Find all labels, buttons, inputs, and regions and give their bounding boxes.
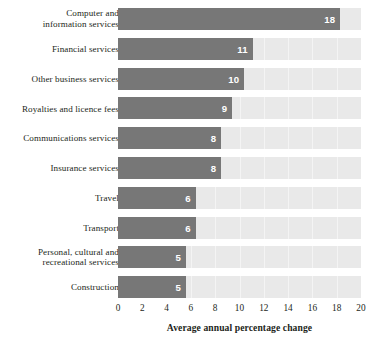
gridline <box>312 68 313 90</box>
x-tick-label: 12 <box>259 303 268 313</box>
x-tick-label: 2 <box>140 303 145 313</box>
chart-row: Other business services10 <box>0 64 374 94</box>
gridline <box>312 187 313 209</box>
gridline <box>312 38 313 60</box>
bar-track: 6 <box>118 217 361 239</box>
gridline <box>312 157 313 179</box>
gridline <box>240 187 241 209</box>
gridline <box>240 217 241 239</box>
gridline <box>288 217 289 239</box>
gridline <box>312 246 313 268</box>
bar-value-label: 6 <box>185 222 191 233</box>
gridline <box>337 127 338 149</box>
gridline <box>264 217 265 239</box>
bar: 5 <box>118 246 186 268</box>
x-tick-label: 8 <box>213 303 218 313</box>
gridline <box>191 276 192 298</box>
gridline <box>264 68 265 90</box>
bar: 8 <box>118 157 221 179</box>
gridline <box>288 187 289 209</box>
bar-value-label: 18 <box>324 13 335 24</box>
x-tick-label: 4 <box>164 303 169 313</box>
bar-track: 18 <box>118 8 361 30</box>
gridline <box>312 217 313 239</box>
gridline <box>264 246 265 268</box>
category-label: Travel <box>0 193 119 204</box>
bar-track: 8 <box>118 127 361 149</box>
plot-area: Computer and information services18Finan… <box>0 0 374 305</box>
gridline <box>264 97 265 119</box>
x-axis-title: Average annual percentage change <box>118 322 361 333</box>
category-label: Computer and information services <box>0 9 119 30</box>
bar-value-label: 10 <box>228 73 239 84</box>
x-axis: 02468101214161820 <box>0 303 374 321</box>
chart-row: Travel6 <box>0 183 374 213</box>
gridline <box>264 127 265 149</box>
x-tick-label: 18 <box>332 303 341 313</box>
chart-row: Construction5 <box>0 273 374 303</box>
gridline <box>288 246 289 268</box>
gridline <box>312 276 313 298</box>
bar-track: 5 <box>118 276 361 298</box>
bar-value-label: 8 <box>211 133 217 144</box>
bar-value-label: 8 <box>211 162 217 173</box>
bar-track: 10 <box>118 68 361 90</box>
bar-value-label: 6 <box>185 192 191 203</box>
bar: 9 <box>118 97 232 119</box>
gridline <box>337 68 338 90</box>
x-tick-label: 14 <box>283 303 292 313</box>
chart-row: Royalties and licence fees9 <box>0 94 374 124</box>
gridline <box>240 97 241 119</box>
x-tick-label: 6 <box>189 303 194 313</box>
gridline <box>288 157 289 179</box>
category-label: Insurance services <box>0 163 119 174</box>
chart-row: Financial services11 <box>0 34 374 64</box>
gridline <box>264 187 265 209</box>
bar-value-label: 11 <box>237 43 248 54</box>
category-label: Other business services <box>0 74 119 85</box>
category-label: Transport <box>0 223 119 234</box>
gridline <box>288 97 289 119</box>
gridline <box>264 38 265 60</box>
bar-track: 11 <box>118 38 361 60</box>
bar-value-label: 5 <box>176 282 182 293</box>
bar-value-label: 9 <box>222 103 228 114</box>
chart-row: Personal, cultural and recreational serv… <box>0 243 374 273</box>
gridline <box>337 157 338 179</box>
gridline <box>240 127 241 149</box>
category-label: Construction <box>0 282 119 293</box>
gridline <box>337 246 338 268</box>
gridline <box>337 38 338 60</box>
gridline <box>215 276 216 298</box>
gridline <box>337 187 338 209</box>
gridline <box>288 38 289 60</box>
bar: 10 <box>118 68 244 90</box>
gridline <box>215 217 216 239</box>
bar-track: 5 <box>118 246 361 268</box>
gridline <box>240 246 241 268</box>
bar-track: 9 <box>118 97 361 119</box>
bar: 6 <box>118 217 196 239</box>
gridline <box>215 187 216 209</box>
chart-row: Computer and information services18 <box>0 4 374 34</box>
gridline <box>288 68 289 90</box>
gridline <box>264 157 265 179</box>
gridline <box>337 217 338 239</box>
x-tick-label: 10 <box>235 303 244 313</box>
gridline <box>337 97 338 119</box>
bar: 5 <box>118 276 186 298</box>
category-label: Financial services <box>0 44 119 55</box>
gridline <box>288 127 289 149</box>
bar-track: 6 <box>118 187 361 209</box>
x-tick-label: 20 <box>356 303 365 313</box>
bar-value-label: 5 <box>176 252 182 263</box>
gridline <box>312 127 313 149</box>
gridline <box>288 276 289 298</box>
bar: 18 <box>118 8 340 30</box>
bar: 11 <box>118 38 253 60</box>
bar-track: 8 <box>118 157 361 179</box>
bar-chart-figure: Computer and information services18Finan… <box>0 0 374 344</box>
gridline <box>264 276 265 298</box>
chart-row: Transport6 <box>0 213 374 243</box>
gridline <box>337 276 338 298</box>
